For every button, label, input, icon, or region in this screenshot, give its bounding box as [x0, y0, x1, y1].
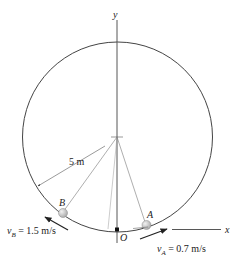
velocity-arrow-a	[140, 229, 167, 239]
line-center-to-a	[117, 137, 145, 222]
point-a-label: A	[147, 210, 153, 220]
line-center-to-b	[63, 137, 117, 212]
point-b-label: B	[59, 198, 65, 208]
origin-label: O	[120, 233, 127, 243]
y-axis-label: y	[113, 10, 117, 20]
diagram-graphics	[0, 0, 239, 262]
x-axis-label: x	[225, 225, 229, 235]
circular-track-diagram: y x 5 m O B A vB = 1.5 m/s vA = 0.7 m/s	[0, 0, 239, 262]
velocity-b-label: vB = 1.5 m/s	[7, 226, 56, 239]
ball-b	[59, 209, 68, 218]
ball-a	[142, 221, 151, 230]
origin-point	[115, 228, 119, 232]
velocity-a-label: vA = 0.7 m/s	[157, 244, 206, 257]
radius-label: 5 m	[69, 157, 84, 167]
